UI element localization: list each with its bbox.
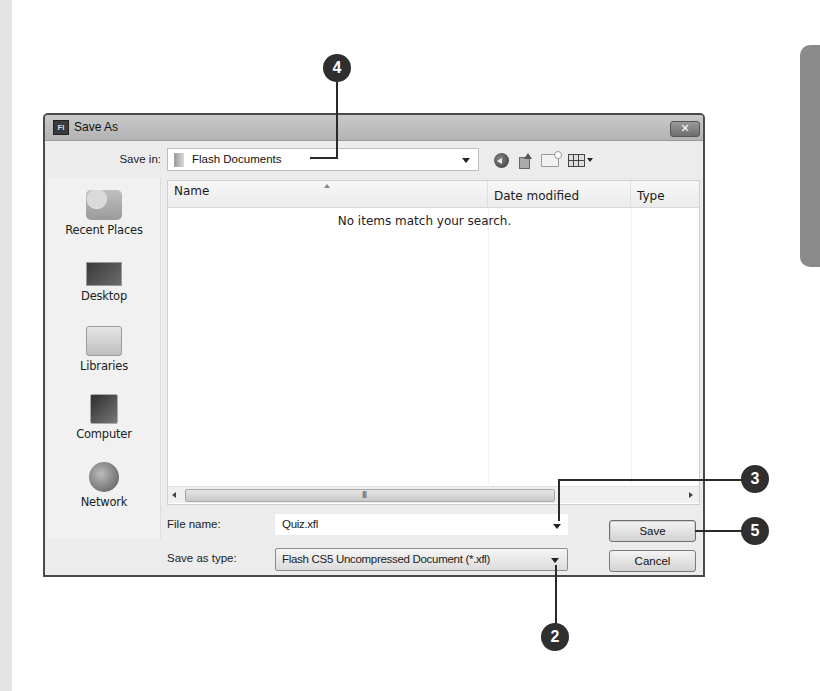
- page-margin-strip: [0, 0, 12, 691]
- callout-leader-line: [558, 479, 560, 521]
- callout-leader-line: [310, 157, 338, 159]
- chevron-down-icon[interactable]: [553, 524, 561, 529]
- save-button[interactable]: Save: [609, 520, 696, 542]
- chevron-down-icon: [587, 158, 593, 162]
- sidebar-item-label: Libraries: [47, 359, 161, 373]
- callout-badge-2: 2: [541, 623, 569, 651]
- scroll-grip-icon: III: [362, 491, 366, 500]
- sidebar-item-computer[interactable]: Computer: [47, 394, 161, 441]
- horizontal-scrollbar[interactable]: III: [168, 486, 699, 503]
- sidebar-item-libraries[interactable]: Libraries: [47, 326, 161, 373]
- back-icon[interactable]: [494, 153, 509, 168]
- flash-app-icon: Fl: [53, 120, 69, 135]
- sort-ascending-icon: [324, 184, 330, 188]
- callout-leader-line: [695, 530, 743, 532]
- desktop-icon: [86, 262, 122, 286]
- save-in-value: Flash Documents: [192, 153, 281, 165]
- views-icon: [568, 154, 585, 167]
- column-header-type[interactable]: Type: [631, 181, 701, 208]
- sidebar-item-label: Computer: [47, 427, 161, 441]
- computer-icon: [90, 394, 118, 424]
- file-list-view[interactable]: Name Date modified Type No items match y…: [167, 180, 700, 505]
- sidebar-item-label: Recent Places: [47, 223, 161, 237]
- save-as-type-combo[interactable]: Flash CS5 Uncompressed Document (*.xfl): [275, 548, 568, 571]
- new-folder-icon[interactable]: [541, 154, 559, 167]
- scrollbar-thumb[interactable]: III: [185, 489, 555, 502]
- save-in-combo[interactable]: Flash Documents: [167, 148, 479, 171]
- navigation-toolbar: [494, 150, 593, 170]
- places-sidebar: Recent Places Desktop Libraries Computer…: [47, 178, 161, 538]
- chevron-down-icon[interactable]: [551, 558, 559, 563]
- callout-leader-line: [555, 565, 557, 625]
- callout-leader-line: [558, 479, 743, 481]
- list-header: Name Date modified Type: [168, 181, 699, 208]
- sidebar-item-network[interactable]: Network: [47, 462, 161, 509]
- libraries-icon: [86, 326, 122, 356]
- recent-places-icon: [86, 190, 122, 220]
- dialog-title: Save As: [74, 120, 118, 134]
- callout-badge-4: 4: [323, 54, 351, 82]
- chevron-down-icon[interactable]: [462, 158, 470, 163]
- close-button[interactable]: ✕: [670, 121, 700, 137]
- scroll-left-icon[interactable]: [172, 492, 176, 498]
- callout-badge-3: 3: [741, 465, 769, 493]
- file-name-value: Quiz.xfl: [282, 518, 318, 530]
- file-name-input[interactable]: Quiz.xfl: [275, 514, 568, 535]
- file-name-label: File name:: [167, 518, 221, 530]
- empty-list-message: No items match your search.: [168, 214, 651, 228]
- up-folder-icon[interactable]: [518, 153, 532, 168]
- save-as-type-value: Flash CS5 Uncompressed Document (*.xfl): [282, 553, 490, 565]
- save-in-label: Save in:: [85, 153, 161, 165]
- column-divider: [631, 208, 632, 484]
- callout-badge-5: 5: [741, 517, 769, 545]
- column-divider: [488, 208, 489, 484]
- sidebar-item-desktop[interactable]: Desktop: [47, 258, 161, 303]
- callout-leader-line: [336, 82, 338, 159]
- network-icon: [89, 462, 119, 492]
- scroll-right-icon[interactable]: [689, 492, 693, 498]
- page-chapter-tab: [800, 45, 820, 267]
- column-header-date-modified[interactable]: Date modified: [488, 181, 631, 208]
- sidebar-item-label: Network: [47, 495, 161, 509]
- save-as-dialog: Fl Save As ✕ Save in: Flash Documents Re…: [43, 113, 705, 577]
- cancel-button[interactable]: Cancel: [609, 550, 696, 572]
- views-menu-button[interactable]: [568, 154, 593, 167]
- folder-icon: [174, 153, 184, 167]
- title-bar[interactable]: Fl Save As ✕: [45, 115, 703, 141]
- sidebar-item-recent-places[interactable]: Recent Places: [47, 190, 161, 237]
- save-as-type-label: Save as type:: [167, 552, 237, 564]
- sidebar-item-label: Desktop: [47, 289, 161, 303]
